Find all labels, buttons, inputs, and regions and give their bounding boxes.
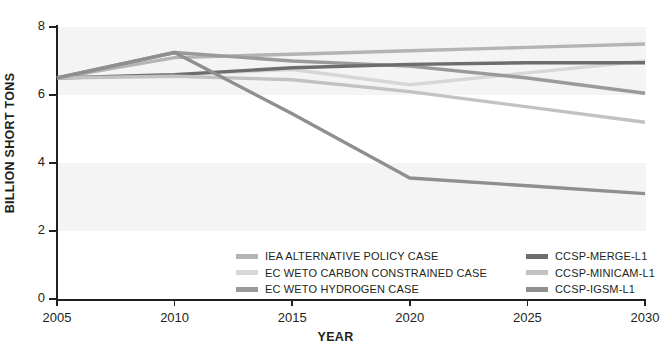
legend-label: EC WETO HYDROGEN CASE xyxy=(265,283,419,295)
legend: IEA ALTERNATIVE POLICY CASEEC WETO CARBO… xyxy=(236,248,656,300)
legend-label: CCSP-MERGE-L1 xyxy=(555,250,647,262)
series-line-iea-alternative-policy-case xyxy=(57,44,645,78)
legend-item[interactable]: CCSP-IGSM-L1 xyxy=(526,281,655,298)
legend-swatch-icon xyxy=(526,270,548,275)
legend-column-right: CCSP-MERGE-L1CCSP-MINICAM-L1CCSP-IGSM-L1 xyxy=(526,248,655,298)
legend-label: CCSP-IGSM-L1 xyxy=(555,283,635,295)
legend-column-left: IEA ALTERNATIVE POLICY CASEEC WETO CARBO… xyxy=(236,248,487,298)
legend-item[interactable]: CCSP-MERGE-L1 xyxy=(526,248,655,265)
x-axis-title: YEAR xyxy=(0,330,671,344)
legend-swatch-icon xyxy=(526,254,548,259)
legend-swatch-icon xyxy=(236,270,258,275)
legend-label: IEA ALTERNATIVE POLICY CASE xyxy=(265,250,438,262)
legend-swatch-icon xyxy=(236,254,258,259)
legend-item[interactable]: CCSP-MINICAM-L1 xyxy=(526,265,655,282)
series-line-ccsp-igsm-l1 xyxy=(57,53,645,194)
legend-item[interactable]: EC WETO HYDROGEN CASE xyxy=(236,281,487,298)
legend-item[interactable]: EC WETO CARBON CONSTRAINED CASE xyxy=(236,265,487,282)
legend-swatch-icon xyxy=(236,287,258,292)
legend-label: EC WETO CARBON CONSTRAINED CASE xyxy=(265,267,487,279)
legend-swatch-icon xyxy=(526,287,548,292)
legend-item[interactable]: IEA ALTERNATIVE POLICY CASE xyxy=(236,248,487,265)
legend-label: CCSP-MINICAM-L1 xyxy=(555,267,655,279)
line-chart: BILLION SHORT TONS 86420 200520102015202… xyxy=(0,0,671,350)
